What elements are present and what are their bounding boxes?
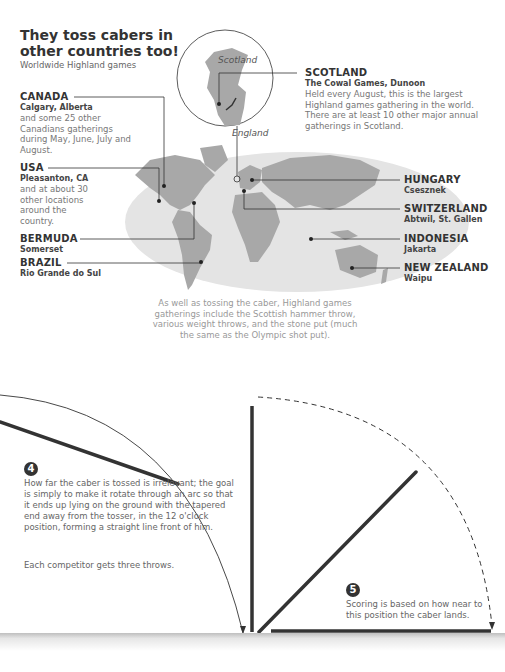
city-name: Csesznek [404,186,504,196]
step-4-text: How far the caber is tossed is irrelevan… [24,478,239,533]
page-subtitle: Worldwide Highland games [20,60,136,70]
location-switzerland: SWITZERLAND Abtwil, St. Gallen [404,203,504,225]
city-name: Pleasanton, CA [20,174,100,184]
location-canada: CANADA Calgary, Alberta and some 25 othe… [20,91,140,155]
country-name: BERMUDA [20,233,120,245]
location-usa: USA Pleasanton, CA and at about 30 other… [20,162,100,226]
city-name: Waipu [404,274,504,284]
location-description: and some 25 other Canadians gatherings d… [20,113,140,155]
location-hungary: HUNGARY Csesznek [404,174,504,196]
country-name: SCOTLAND [305,67,500,79]
city-name: Rio Grande do Sul [20,269,130,279]
country-name: HUNGARY [404,174,504,186]
inset-label-scotland: Scotland [218,55,257,65]
location-indonesia: INDONESIA Jakarta [404,233,504,255]
ground-shadow [0,633,505,651]
location-bermuda: BERMUDA Somerset [20,233,120,255]
location-new-zealand: NEW ZEALAND Waipu [404,262,504,284]
country-name: NEW ZEALAND [404,262,504,274]
location-description: Held every August, this is the largest H… [305,89,500,131]
other-events-note: As well as tossing the caber, Highland g… [150,298,360,340]
country-name: SWITZERLAND [404,203,504,215]
location-brazil: BRAZIL Rio Grande do Sul [20,257,130,279]
country-name: INDONESIA [404,233,504,245]
page-title: They toss cabers in other countries too! [20,27,200,59]
country-name: BRAZIL [20,257,130,269]
step-5-badge: 5 [346,583,360,597]
location-scotland: SCOTLAND The Cowal Games, Dunoon Held ev… [305,67,500,131]
city-name: Somerset [20,245,120,255]
city-name: Jakarta [404,245,504,255]
step-4-badge: 4 [24,462,38,476]
city-name: Abtwil, St. Gallen [404,215,504,225]
city-name: The Cowal Games, Dunoon [305,79,500,89]
step-4-extra: Each competitor gets three throws. [24,560,239,571]
country-name: USA [20,162,100,174]
step-5-text: Scoring is based on how near to this pos… [346,599,486,621]
location-description: and at about 30 other locations around t… [20,184,100,226]
inset-label-england: England [232,128,269,138]
country-name: CANADA [20,91,140,103]
city-name: Calgary, Alberta [20,103,140,113]
